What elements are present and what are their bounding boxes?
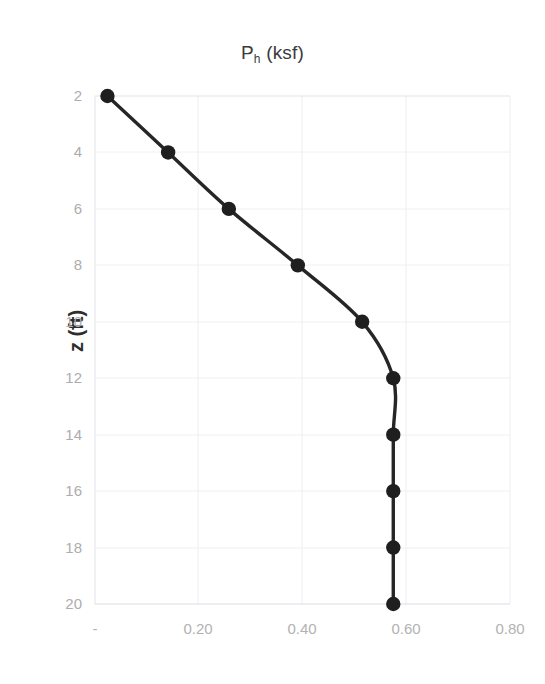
y-tick-label: 18 xyxy=(36,539,82,556)
x-tick-label: - xyxy=(60,620,130,637)
y-tick-label: 20 xyxy=(36,595,82,612)
x-tick-label: 0.40 xyxy=(267,620,337,637)
y-tick-label: 16 xyxy=(36,482,82,499)
y-tick-label: 8 xyxy=(36,256,82,273)
data-point xyxy=(386,540,400,554)
data-point xyxy=(161,145,175,159)
data-point xyxy=(222,202,236,216)
y-tick-label: 6 xyxy=(36,200,82,217)
chart-container: Ph (ksf) z (ft) 2 4 6 8 10 12 14 16 xyxy=(0,0,545,684)
x-tick-label: 0.60 xyxy=(371,620,441,637)
y-tick-label: 10 xyxy=(36,313,82,330)
y-tick-label: 14 xyxy=(36,426,82,443)
data-point xyxy=(386,484,400,498)
y-tick-label: 12 xyxy=(36,369,82,386)
x-tick-label: 0.80 xyxy=(475,620,545,637)
y-tick-label: 2 xyxy=(36,87,82,104)
data-line xyxy=(107,96,395,604)
data-point xyxy=(100,89,114,103)
y-tick-label: 4 xyxy=(36,143,82,160)
data-point xyxy=(355,315,369,329)
data-point xyxy=(291,258,305,272)
data-markers xyxy=(100,89,400,611)
gridlines-vertical xyxy=(95,96,510,604)
data-point xyxy=(386,427,400,441)
x-tick-label: 0.20 xyxy=(163,620,233,637)
data-point xyxy=(386,371,400,385)
data-point xyxy=(386,597,400,611)
